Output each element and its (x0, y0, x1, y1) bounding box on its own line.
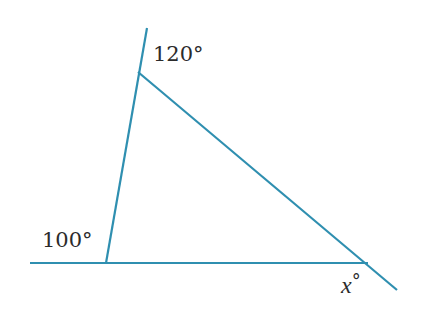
angle-label-100: 100° (42, 230, 93, 251)
hypotenuse-line (138, 72, 397, 290)
angle-variable-x: x (341, 272, 352, 298)
angle-label-120: 120° (153, 44, 204, 65)
angle-label-x: x° (341, 272, 361, 297)
degree-symbol: ° (352, 270, 361, 291)
left-side-line (106, 28, 147, 263)
